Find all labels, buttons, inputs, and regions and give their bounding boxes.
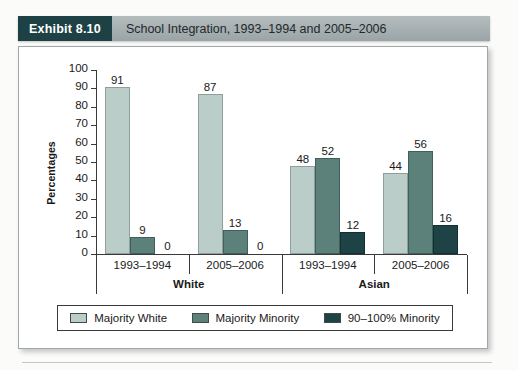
group-label: White <box>96 274 282 294</box>
page-bottom-rule <box>22 362 492 363</box>
bar: 44 <box>383 173 408 254</box>
period-divider <box>96 255 97 274</box>
legend-swatch <box>192 313 209 323</box>
chart-panel: Percentages 0102030405060708090100 91908… <box>18 46 488 349</box>
y-axis-line <box>96 70 97 255</box>
period-label: 1993–1994 <box>96 255 189 274</box>
legend-item: Majority Minority <box>192 312 300 324</box>
period-label-row: 1993–19942005–20061993–19942005–2006 <box>96 255 468 274</box>
bar-value-label: 87 <box>204 81 217 93</box>
legend-swatch <box>324 313 341 323</box>
legend-label: Majority Minority <box>216 312 300 324</box>
bar: 12 <box>340 232 365 254</box>
y-tick-mark <box>91 162 96 163</box>
bar: 9 <box>130 237 155 254</box>
group-divider <box>282 274 283 294</box>
y-tick-mark <box>91 217 96 218</box>
legend-swatch <box>70 313 87 323</box>
legend-label: Majority White <box>94 312 167 324</box>
y-tick-mark <box>91 88 96 89</box>
y-tick-mark <box>91 199 96 200</box>
bar-value-label: 9 <box>139 224 145 236</box>
legend-item: Majority White <box>70 312 167 324</box>
legend-label: 90–100% Minority <box>348 312 440 324</box>
y-axis-title: Percentages <box>45 123 57 223</box>
group-divider <box>96 274 97 294</box>
y-tick-mark <box>91 70 96 71</box>
y-tick-label: 50 <box>75 154 88 166</box>
group-label-row: WhiteAsian <box>96 274 468 294</box>
y-tick-label: 40 <box>75 172 88 184</box>
bar: 48 <box>290 166 315 254</box>
period-divider <box>282 255 283 274</box>
y-tick-mark <box>91 180 96 181</box>
period-label: 2005–2006 <box>189 255 282 274</box>
bar-value-label: 44 <box>389 160 402 172</box>
bar-value-label: 0 <box>164 240 170 252</box>
y-tick-label: 20 <box>75 209 88 221</box>
group-divider <box>467 274 468 294</box>
y-tick-label: 10 <box>75 228 88 240</box>
y-tick-label: 70 <box>75 117 88 129</box>
bar-value-label: 0 <box>257 240 263 252</box>
plot-area: 0102030405060708090100 91908713048521244… <box>96 70 467 254</box>
period-label: 1993–1994 <box>282 255 375 274</box>
period-label: 2005–2006 <box>374 255 467 274</box>
bar-value-label: 12 <box>346 219 359 231</box>
bar-value-label: 16 <box>439 212 452 224</box>
bar-value-label: 91 <box>111 74 124 86</box>
bar: 52 <box>315 158 340 254</box>
bar-value-label: 52 <box>321 145 334 157</box>
legend-item: 90–100% Minority <box>324 312 440 324</box>
bar-value-label: 13 <box>229 217 242 229</box>
y-tick-mark <box>91 144 96 145</box>
bar-value-label: 56 <box>414 138 427 150</box>
y-tick-label: 90 <box>75 80 88 92</box>
y-tick-mark <box>91 107 96 108</box>
group-label: Asian <box>282 274 468 294</box>
chart-figure: Percentages 0102030405060708090100 91908… <box>19 47 489 350</box>
y-tick-mark <box>91 125 96 126</box>
bar: 91 <box>105 87 130 254</box>
bar: 87 <box>198 94 223 254</box>
y-tick-label: 30 <box>75 191 88 203</box>
y-tick-label: 0 <box>82 246 88 258</box>
chart-legend: Majority WhiteMajority Minority90–100% M… <box>57 305 453 331</box>
y-tick-label: 100 <box>69 62 88 74</box>
period-divider <box>189 255 190 274</box>
exhibit-number-tag: Exhibit 8.10 <box>18 16 112 41</box>
y-tick-mark <box>91 236 96 237</box>
y-tick-label: 80 <box>75 99 88 111</box>
y-tick-label: 60 <box>75 136 88 148</box>
bar: 56 <box>408 151 433 254</box>
bar: 13 <box>223 230 248 254</box>
exhibit-header: Exhibit 8.10 School Integration, 1993–19… <box>18 16 490 41</box>
period-divider <box>374 255 375 274</box>
period-divider <box>467 255 468 274</box>
bar: 16 <box>433 225 458 254</box>
bar-value-label: 48 <box>296 153 309 165</box>
exhibit-title: School Integration, 1993–1994 and 2005–2… <box>112 16 387 41</box>
